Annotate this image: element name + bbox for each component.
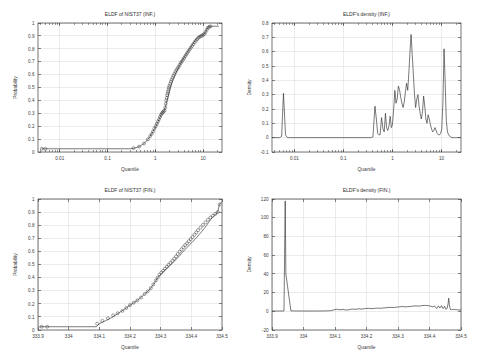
x-tick-label: 333.9 (32, 334, 44, 339)
x-tick-label: 334.1 (94, 334, 106, 339)
plot-area (272, 23, 461, 152)
plot-mask (238, 153, 473, 183)
y-tick-label: 80 (263, 234, 269, 239)
y-tick-label: 0.3 (262, 92, 269, 97)
y-tick-label: -20 (262, 328, 269, 333)
y-tick-label: 0.7 (262, 35, 269, 40)
y-tick-label: 0.6 (262, 49, 269, 54)
y-tick-label: 1 (32, 197, 35, 202)
y-tick-label: 0.8 (28, 47, 35, 52)
y-tick-label: 0 (32, 150, 35, 155)
x-tick-label: 1 (391, 156, 394, 161)
y-axis-label: Probability (13, 76, 18, 99)
x-tick-label: 0.01 (290, 156, 299, 161)
plot-mask (4, 6, 38, 182)
y-tick-label: 100 (261, 215, 269, 220)
plot-mask (223, 6, 235, 182)
y-tick-label: 0.2 (28, 124, 35, 129)
y-tick-label: 0.6 (28, 249, 35, 254)
x-tick-label: 334 (65, 334, 73, 339)
x-tick-label: 10 (439, 156, 445, 161)
y-tick-label: 120 (261, 197, 269, 202)
plot-mask (462, 6, 474, 182)
x-tick-label: 0.1 (104, 156, 111, 161)
chart-ecdf-inf: ELDF of NIST37 (INF.)0.010.111000.10.20.… (4, 6, 234, 182)
x-tick-label: 10 (200, 156, 206, 161)
y-tick-label: 0.3 (28, 288, 35, 293)
y-tick-label: 1 (32, 21, 35, 26)
x-tick-label: 333.9 (266, 334, 278, 339)
chart-density-fin: ELDF's density (FIN.)333.9334334.1334.23… (238, 182, 473, 360)
y-tick-label: 0.9 (28, 34, 35, 39)
y-tick-label: 0.6 (28, 72, 35, 77)
figure-canvas: ELDF of NIST37 (INF.)0.010.111000.10.20.… (0, 0, 477, 362)
chart-title: ELDF of NIST37 (INF.) (105, 11, 156, 17)
x-tick-label: 0.1 (340, 156, 347, 161)
x-axis-label: Quantile (358, 167, 376, 172)
y-tick-label: 0.8 (28, 223, 35, 228)
y-axis-label: Density (247, 79, 252, 96)
y-tick-label: 0.7 (28, 59, 35, 64)
y-tick-label: 0.4 (262, 78, 269, 83)
chart-ecdf-fin: ELDF of NIST37 (FIN.)333.9334334.1334.23… (4, 182, 234, 360)
y-tick-label: 0.2 (28, 302, 35, 307)
y-tick-label: 0.5 (262, 64, 269, 69)
y-tick-label: 0.5 (28, 262, 35, 267)
x-tick-label: 334.3 (392, 334, 404, 339)
x-tick-label: 334.5 (216, 334, 228, 339)
x-tick-label: 334 (300, 334, 308, 339)
y-tick-label: -0.1 (261, 150, 269, 155)
y-tick-label: 0.2 (262, 107, 269, 112)
y-tick-label: 0.4 (28, 275, 35, 280)
y-tick-label: 0.8 (262, 21, 269, 26)
x-tick-label: 334.4 (186, 334, 198, 339)
chart-title: ELDF of NIST37 (FIN.) (105, 187, 156, 193)
chart-title: ELDF's density (INF.) (343, 11, 390, 17)
y-tick-label: 40 (263, 272, 269, 277)
chart-density-inf: ELDF's density (INF.)0.010.1110-0.100.10… (238, 6, 473, 182)
x-axis-label: Quantile (121, 167, 139, 172)
y-tick-label: 0 (32, 328, 35, 333)
x-axis-label: Quantile (121, 345, 139, 350)
y-axis-label: Probability (13, 253, 18, 276)
y-tick-label: 0.1 (28, 315, 35, 320)
x-tick-label: 334.2 (124, 334, 136, 339)
y-tick-label: 20 (263, 290, 269, 295)
x-tick-label: 0.01 (55, 156, 64, 161)
y-tick-label: 0.1 (262, 121, 269, 126)
y-tick-label: 0 (266, 135, 269, 140)
y-tick-label: 0.7 (28, 236, 35, 241)
x-tick-label: 334.1 (329, 334, 341, 339)
x-axis-label: Quantile (358, 345, 376, 350)
x-tick-label: 334.2 (361, 334, 373, 339)
chart-title: ELDF's density (FIN.) (343, 187, 391, 193)
y-tick-label: 60 (263, 253, 269, 258)
x-tick-label: 1 (154, 156, 157, 161)
x-tick-label: 334.4 (424, 334, 436, 339)
y-tick-label: 0 (266, 309, 269, 314)
y-tick-label: 0.1 (28, 137, 35, 142)
y-tick-label: 0.3 (28, 111, 35, 116)
y-tick-label: 0.9 (28, 210, 35, 215)
y-tick-label: 0.4 (28, 98, 35, 103)
x-tick-label: 334.3 (155, 334, 167, 339)
x-tick-label: 334.5 (455, 334, 467, 339)
y-axis-label: Density (247, 256, 252, 273)
y-tick-label: 0.5 (28, 85, 35, 90)
